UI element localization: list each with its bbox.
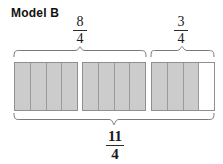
whole-bar-2 [82, 62, 146, 111]
left-fraction-label: 8 4 [67, 15, 93, 46]
bar-cell [62, 63, 77, 110]
bar-cell-empty [199, 63, 214, 110]
bar-cell [168, 63, 184, 110]
bar-cell [115, 63, 131, 110]
page-title: Model B [11, 6, 59, 20]
bar-cell [99, 63, 115, 110]
right-brace [150, 46, 215, 58]
right-fraction-denominator: 4 [168, 31, 194, 46]
right-fraction-label: 3 4 [168, 15, 194, 46]
bar-cell [31, 63, 47, 110]
right-fraction-numerator: 3 [168, 15, 194, 30]
bar-cell [47, 63, 63, 110]
total-fraction-label: 11 4 [100, 129, 130, 162]
left-brace [13, 46, 147, 58]
total-brace [13, 113, 215, 126]
bar-cell [184, 63, 200, 110]
total-fraction-numerator: 11 [100, 129, 130, 145]
bar-cell [83, 63, 99, 110]
whole-bar-1 [14, 62, 78, 111]
left-fraction-numerator: 8 [67, 15, 93, 30]
bar-cell [15, 63, 31, 110]
whole-bar-3 [151, 62, 215, 111]
bar-cell [130, 63, 145, 110]
left-fraction-denominator: 4 [67, 31, 93, 46]
bar-cell [152, 63, 168, 110]
total-fraction-denominator: 4 [100, 146, 130, 162]
model-b-fraction-diagram: Model B 8 4 3 4 [0, 0, 223, 164]
